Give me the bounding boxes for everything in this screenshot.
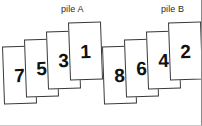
pile-b-label: pile B	[161, 4, 184, 14]
card-value-label: 4	[158, 50, 169, 69]
card-piles-diagram: 7 5 3 1 pile A 8 6 4 2 pile B	[0, 0, 202, 126]
card-value-label: 5	[36, 58, 47, 77]
card-value-label: 7	[14, 65, 25, 84]
card-pile-b-4[interactable]: 2	[168, 21, 202, 80]
card-value-label: 1	[80, 41, 91, 60]
card-value-label: 8	[114, 65, 125, 84]
card-value-label: 6	[136, 58, 147, 77]
card-value-label: 2	[180, 41, 191, 60]
card-pile-a-4[interactable]: 1	[68, 21, 103, 80]
pile-a-label: pile A	[61, 4, 84, 14]
card-value-label: 3	[58, 50, 69, 69]
